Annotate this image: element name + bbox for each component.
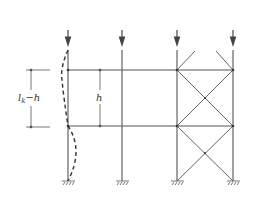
load-arrows bbox=[66, 30, 236, 45]
support-2 bbox=[116, 181, 129, 185]
left-dimension-label: lk−h bbox=[18, 92, 40, 105]
support-1 bbox=[62, 181, 75, 185]
load-arrow-1 bbox=[66, 30, 71, 45]
fixed-supports bbox=[62, 181, 240, 185]
frame-diagram: lk−h h bbox=[0, 0, 254, 197]
center-dimension-label: h bbox=[96, 92, 102, 103]
joints bbox=[67, 69, 235, 154]
support-3 bbox=[171, 181, 184, 185]
load-arrow-4 bbox=[231, 30, 236, 45]
load-arrow-2 bbox=[120, 30, 125, 45]
load-arrow-3 bbox=[175, 30, 180, 45]
support-4 bbox=[227, 181, 240, 185]
